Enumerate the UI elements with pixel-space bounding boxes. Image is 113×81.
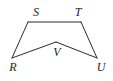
vertex-label-r: R <box>9 61 16 73</box>
vertex-label-t: T <box>75 6 82 18</box>
vertex-label-u: U <box>97 61 106 73</box>
vertex-label-s: S <box>33 6 39 18</box>
geometry-figure: S T V R U <box>0 0 113 81</box>
edge-v-r <box>12 42 56 58</box>
vertex-label-v: V <box>53 46 60 58</box>
